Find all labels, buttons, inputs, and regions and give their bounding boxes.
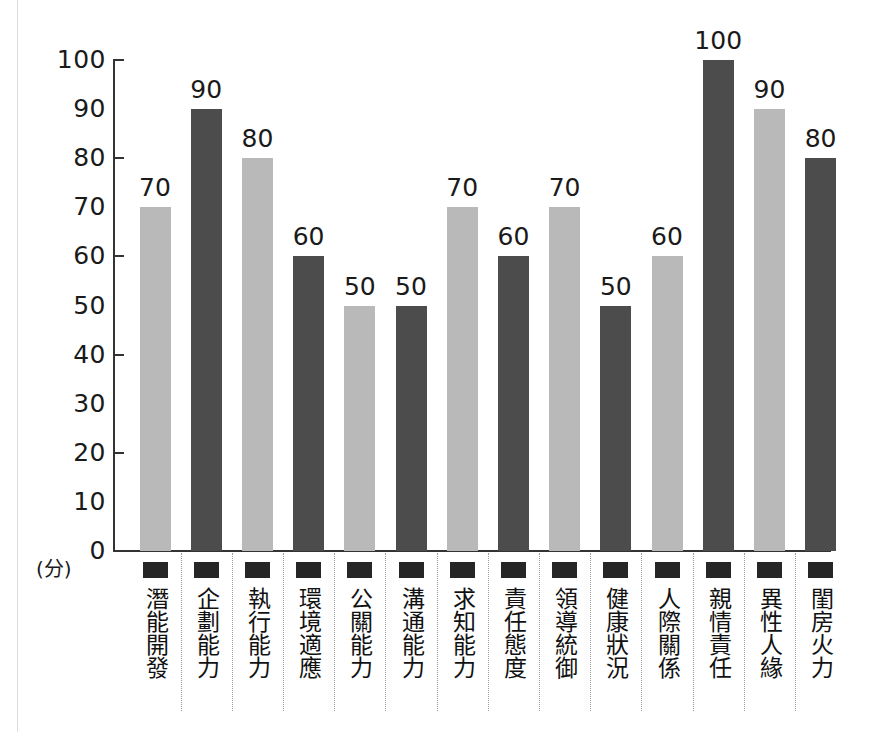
- bar-value-label: 70: [125, 175, 185, 200]
- bar[interactable]: [652, 256, 683, 551]
- category-label-column[interactable]: 責任態度: [488, 552, 538, 727]
- category-label-text: 求知能力: [450, 587, 475, 679]
- y-axis-tick-label: 100: [36, 47, 106, 72]
- bar-value-label: 60: [637, 224, 697, 249]
- category-label-column[interactable]: 領導統御: [540, 552, 590, 727]
- category-label-text: 健康狀況: [603, 587, 628, 679]
- category-label-text: 領導統御: [552, 587, 577, 679]
- category-label-column[interactable]: 異性人緣: [744, 552, 794, 727]
- y-axis-tick-label: 30: [36, 391, 106, 416]
- y-axis-tick: [113, 550, 124, 552]
- bar-value-label: 100: [688, 28, 748, 53]
- y-axis-tick-label: 70: [36, 194, 106, 219]
- y-axis-tick: [113, 354, 124, 356]
- y-axis-tick: [113, 452, 124, 454]
- category-label-text: 公關能力: [347, 587, 372, 679]
- bar-value-label: 90: [739, 77, 799, 102]
- bar-value-label: 60: [279, 224, 339, 249]
- filled-square-marker-icon: [603, 562, 628, 578]
- filled-square-marker-icon: [347, 562, 372, 578]
- y-axis-tick-label: 90: [36, 96, 106, 121]
- category-label-column[interactable]: 溝通能力: [386, 552, 436, 727]
- filled-square-marker-icon: [706, 562, 731, 578]
- bar[interactable]: [805, 158, 836, 551]
- bar[interactable]: [447, 207, 478, 551]
- y-axis-tick: [113, 59, 124, 61]
- bar[interactable]: [549, 207, 580, 551]
- filled-square-marker-icon: [143, 562, 168, 578]
- category-label-column[interactable]: 企劃能力: [181, 552, 231, 727]
- y-axis-tick-label: 40: [36, 342, 106, 367]
- bar[interactable]: [600, 306, 631, 552]
- category-label-text: 人際關係: [655, 587, 680, 679]
- y-axis-line: [113, 59, 115, 552]
- category-label-column[interactable]: 健康狀況: [591, 552, 641, 727]
- bar-value-label: 70: [535, 175, 595, 200]
- bar-chart-plot-area: (分) 100908070605040302010070潛能開發90企劃能力80…: [0, 0, 879, 732]
- category-label-column[interactable]: 人際關係: [642, 552, 692, 727]
- y-axis-tick-label: 50: [36, 293, 106, 318]
- y-axis-tick: [113, 157, 124, 159]
- category-label-column[interactable]: 環境適應: [284, 552, 334, 727]
- category-label-text: 企劃能力: [194, 587, 219, 679]
- bar-value-label: 60: [483, 224, 543, 249]
- filled-square-marker-icon: [296, 562, 321, 578]
- chart-page: (分) 100908070605040302010070潛能開發90企劃能力80…: [0, 0, 879, 732]
- category-label-column[interactable]: 執行能力: [232, 552, 282, 727]
- bar-value-label: 70: [432, 175, 492, 200]
- y-axis-tick-label: 10: [36, 489, 106, 514]
- category-label-column[interactable]: 閨房火力: [796, 552, 846, 727]
- y-axis-tick-label: 0: [36, 538, 106, 563]
- category-label-column[interactable]: 公關能力: [335, 552, 385, 727]
- y-axis-tick-label: 80: [36, 145, 106, 170]
- y-axis-tick-label: 60: [36, 243, 106, 268]
- bar[interactable]: [191, 109, 222, 551]
- category-label-text: 溝通能力: [399, 587, 424, 679]
- filled-square-marker-icon: [552, 562, 577, 578]
- bar[interactable]: [396, 306, 427, 552]
- filled-square-marker-icon: [655, 562, 680, 578]
- filled-square-marker-icon: [399, 562, 424, 578]
- bar[interactable]: [498, 256, 529, 551]
- category-label-text: 責任態度: [501, 587, 526, 679]
- category-label-text: 環境適應: [296, 587, 321, 679]
- bar[interactable]: [242, 158, 273, 551]
- bar-value-label: 80: [227, 126, 287, 151]
- bar[interactable]: [140, 207, 171, 551]
- y-axis-tick: [113, 255, 124, 257]
- bar[interactable]: [703, 60, 734, 551]
- filled-square-marker-icon: [194, 562, 219, 578]
- bar-value-label: 50: [381, 274, 441, 299]
- filled-square-marker-icon: [501, 562, 526, 578]
- category-label-text: 閨房火力: [808, 587, 833, 679]
- filled-square-marker-icon: [450, 562, 475, 578]
- bar[interactable]: [754, 109, 785, 551]
- filled-square-marker-icon: [245, 562, 270, 578]
- category-label-text: 潛能開發: [143, 587, 168, 679]
- bar-value-label: 50: [586, 274, 646, 299]
- category-label-column[interactable]: 潛能開發: [130, 552, 180, 727]
- filled-square-marker-icon: [808, 562, 833, 578]
- y-axis-tick-label: 20: [36, 440, 106, 465]
- category-label-text: 異性人緣: [757, 587, 782, 679]
- bar-value-label: 90: [176, 77, 236, 102]
- category-label-text: 執行能力: [245, 587, 270, 679]
- bar[interactable]: [344, 306, 375, 552]
- category-label-column[interactable]: 求知能力: [437, 552, 487, 727]
- bar[interactable]: [293, 256, 324, 551]
- category-label-column[interactable]: 親情責任: [693, 552, 743, 727]
- filled-square-marker-icon: [757, 562, 782, 578]
- bar-value-label: 80: [791, 126, 851, 151]
- category-label-text: 親情責任: [706, 587, 731, 679]
